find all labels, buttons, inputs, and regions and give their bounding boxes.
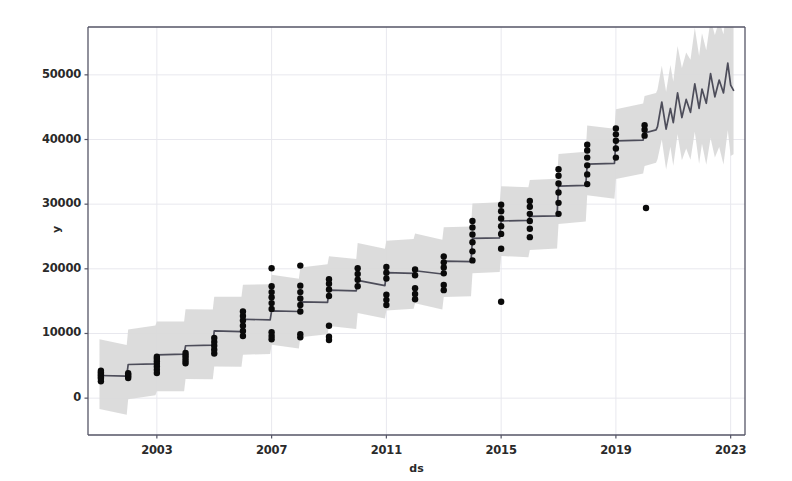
y-tick-label: 50000 [42,67,81,81]
x-tick-label: 2003 [127,443,187,457]
y-tick-label: 10000 [42,325,81,339]
x-axis-label: ds [377,462,457,475]
x-tick-label: 2019 [586,443,646,457]
forecast-plot-canvas [0,0,792,481]
prophet-forecast-figure: 01000020000300004000050000 2003200720112… [0,0,792,481]
x-tick-label: 2007 [242,443,302,457]
y-tick-label: 20000 [42,261,81,275]
y-tick-label: 40000 [42,132,81,146]
y-axis-label: y [50,200,63,260]
x-tick-label: 2015 [471,443,531,457]
y-tick-label: 0 [73,390,81,404]
x-tick-label: 2011 [356,443,416,457]
x-tick-label: 2023 [701,443,761,457]
